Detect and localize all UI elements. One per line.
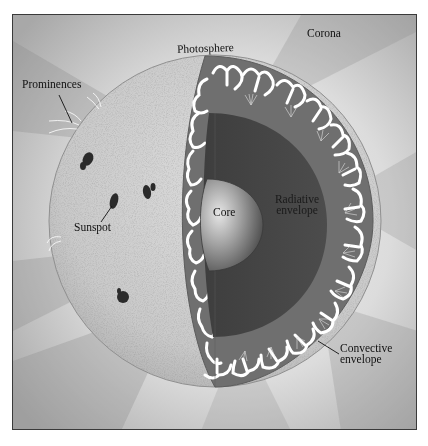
label-convective-envelope: Convective envelope bbox=[340, 343, 392, 365]
label-convective-line2: envelope bbox=[340, 354, 392, 365]
label-sunspot: Sunspot bbox=[74, 222, 111, 233]
label-radiative-envelope: Radiative envelope bbox=[270, 194, 324, 216]
label-corona: Corona bbox=[307, 28, 341, 39]
label-photosphere: Photosphere bbox=[177, 42, 234, 55]
diagram-frame bbox=[12, 14, 417, 430]
label-prominences: Prominences bbox=[22, 79, 81, 90]
label-core: Core bbox=[213, 207, 235, 218]
label-radiative-line2: envelope bbox=[270, 205, 324, 216]
